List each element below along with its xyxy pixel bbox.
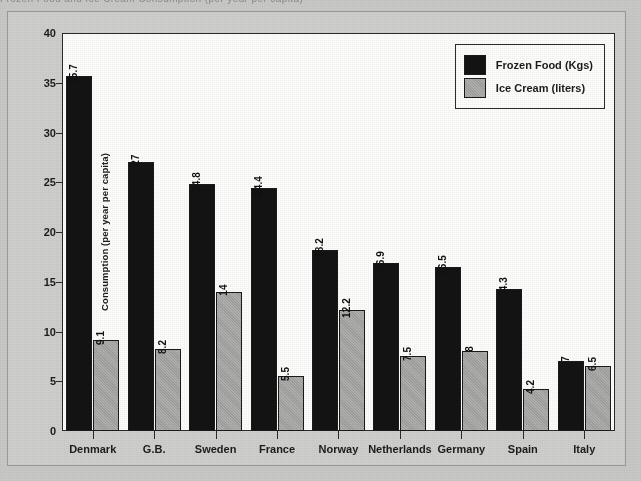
bar-value-label: 12.2 <box>341 298 352 318</box>
bar-group: 278.2G.B. <box>123 33 184 431</box>
x-tick-mark <box>93 431 94 439</box>
bar-ice-cream[interactable]: 12.2 <box>339 310 365 431</box>
x-tick-label-sweden: Sweden <box>195 443 237 455</box>
bar-group: 18.212.2Norway <box>308 33 369 431</box>
bar-group: 24.814Sweden <box>185 33 246 431</box>
bar-value-label: 7 <box>560 357 571 363</box>
legend-label: Ice Cream (liters) <box>496 82 585 94</box>
bar-frozen-food[interactable]: 16.5 <box>435 267 461 431</box>
x-tick-mark <box>154 431 155 439</box>
bar-value-label: 16.9 <box>375 251 386 271</box>
bar-value-label: 14 <box>218 284 229 295</box>
x-tick-label-germany: Germany <box>438 443 486 455</box>
y-tick-label: 15 <box>26 276 56 288</box>
bar-frozen-food[interactable]: 7 <box>558 361 584 431</box>
cropped-header-text: Frozen Food and Ice Cream Consumption (p… <box>0 0 641 7</box>
legend-swatch-icon <box>464 55 486 75</box>
bar-group: 35.79.1Denmark <box>62 33 123 431</box>
bar-group: 24.45.5France <box>246 33 307 431</box>
bar-ice-cream[interactable]: 8.2 <box>155 349 181 431</box>
y-tick-label: 0 <box>26 425 56 437</box>
bar-value-label: 14.3 <box>498 277 509 297</box>
x-tick-label-norway: Norway <box>319 443 359 455</box>
bar-frozen-food[interactable]: 24.4 <box>251 188 277 431</box>
bar-frozen-food[interactable]: 16.9 <box>373 263 399 431</box>
bar-ice-cream[interactable]: 4.2 <box>523 389 549 431</box>
x-tick-label-netherlands: Netherlands <box>368 443 432 455</box>
chart-area: Consumption (per year per capita) 051015… <box>62 33 615 431</box>
bar-value-label: 7.5 <box>402 347 413 361</box>
bar-value-label: 9.1 <box>95 331 106 345</box>
bar-ice-cream[interactable]: 7.5 <box>400 356 426 431</box>
x-tick-label-italy: Italy <box>573 443 595 455</box>
bar-group: 16.97.5Netherlands <box>369 33 430 431</box>
x-tick-label-spain: Spain <box>508 443 538 455</box>
chart-legend: Frozen Food (Kgs)Ice Cream (liters) <box>455 44 605 109</box>
bar-frozen-food[interactable]: 27 <box>128 162 154 431</box>
x-tick-mark <box>523 431 524 439</box>
legend-label: Frozen Food (Kgs) <box>496 59 593 71</box>
bar-ice-cream[interactable]: 9.1 <box>93 340 119 431</box>
y-tick-label: 10 <box>26 326 56 338</box>
x-tick-mark <box>216 431 217 439</box>
y-tick-label: 35 <box>26 77 56 89</box>
bar-value-label: 16.5 <box>437 255 448 275</box>
legend-item[interactable]: Ice Cream (liters) <box>464 78 593 98</box>
bar-frozen-food[interactable]: 18.2 <box>312 250 338 431</box>
bar-frozen-food[interactable]: 14.3 <box>496 289 522 431</box>
bar-value-label: 24.8 <box>191 172 202 192</box>
x-tick-label-denmark: Denmark <box>69 443 116 455</box>
bar-value-label: 6.5 <box>587 357 598 371</box>
bar-frozen-food[interactable]: 35.7 <box>66 76 92 431</box>
x-tick-label-gb: G.B. <box>143 443 166 455</box>
x-tick-mark <box>277 431 278 439</box>
legend-item[interactable]: Frozen Food (Kgs) <box>464 55 593 75</box>
y-tick-label: 25 <box>26 176 56 188</box>
bar-ice-cream[interactable]: 5.5 <box>278 376 304 431</box>
bar-value-label: 35.7 <box>68 64 79 84</box>
y-tick-label: 20 <box>26 226 56 238</box>
y-tick-label: 5 <box>26 375 56 387</box>
bar-ice-cream[interactable]: 8 <box>462 351 488 431</box>
bar-value-label: 18.2 <box>314 238 325 258</box>
bar-ice-cream[interactable]: 6.5 <box>585 366 611 431</box>
bar-value-label: 8 <box>464 347 475 353</box>
x-tick-label-france: France <box>259 443 295 455</box>
x-tick-mark <box>584 431 585 439</box>
bar-value-label: 4.2 <box>525 380 536 394</box>
bar-value-label: 8.2 <box>157 340 168 354</box>
figure-panel: Consumption (per year per capita) 051015… <box>7 11 626 466</box>
legend-swatch-icon <box>464 78 486 98</box>
bar-frozen-food[interactable]: 24.8 <box>189 184 215 431</box>
x-tick-mark <box>338 431 339 439</box>
bar-value-label: 27 <box>130 155 141 166</box>
x-tick-mark <box>400 431 401 439</box>
y-tick-label: 40 <box>26 27 56 39</box>
x-tick-mark <box>461 431 462 439</box>
bar-value-label: 5.5 <box>280 367 291 381</box>
y-tick-label: 30 <box>26 127 56 139</box>
bar-ice-cream[interactable]: 14 <box>216 292 242 431</box>
bar-value-label: 24.4 <box>253 176 264 196</box>
